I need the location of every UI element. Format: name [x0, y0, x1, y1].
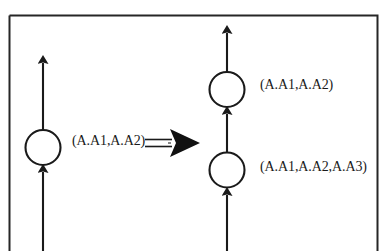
left-node-circle [26, 130, 61, 165]
right-top-node-label: (A.A1,A.A2) [260, 78, 333, 92]
right-bottom-node-label: (A.A1,A.A2,A.A3) [260, 160, 367, 174]
right-bottom-node-circle [210, 153, 245, 188]
left-graph [26, 63, 61, 251]
right-graph [210, 33, 245, 251]
figure-border [10, 16, 378, 251]
right-top-node-circle [210, 72, 245, 107]
transform-arrow [145, 140, 172, 147]
left-node-label: (A.A1,A.A2) [72, 134, 145, 148]
figure-container: (A.A1,A.A2) (A.A1,A.A2) (A.A1,A.A2,A.A3) [0, 0, 386, 251]
diagram-canvas [0, 0, 386, 251]
